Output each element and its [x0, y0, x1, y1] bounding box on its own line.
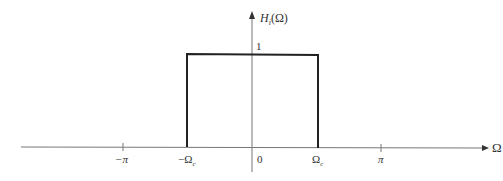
tick-label-minus-omega-c: −Ωc [178, 153, 196, 168]
tick-label-omega-c: Ωc [312, 153, 324, 168]
frequency-response-diagram: Hi(Ω) 1 Ω −π −Ωc 0 Ωc π [0, 0, 503, 181]
tick-label-zero: 0 [257, 153, 263, 165]
x-axis-arrow-icon [482, 145, 489, 151]
tick-label-pi: π [378, 153, 384, 165]
y-axis-label: Hi(Ω) [259, 11, 288, 27]
tick-label-minus-pi: −π [115, 153, 128, 165]
level-one-label: 1 [256, 40, 262, 52]
y-axis-arrow-icon [249, 11, 255, 19]
x-axis-label: Ω [492, 140, 502, 155]
